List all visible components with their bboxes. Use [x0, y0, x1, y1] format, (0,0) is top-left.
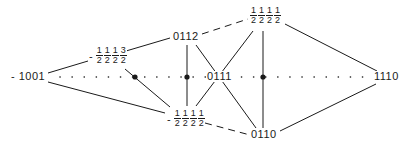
edge-neg1113-to-0112: [126, 38, 170, 51]
edge-1001-to-neg1111: [48, 82, 165, 113]
fraction-denominator: 2: [112, 56, 119, 65]
node-label-0111: 0111: [206, 71, 233, 82]
fraction-denominator: 2: [258, 16, 265, 25]
edge-neg1113-to-neg1111: [125, 69, 170, 107]
fraction-denominator: 2: [174, 119, 181, 128]
edge-top1111-to-1110: [285, 24, 377, 71]
fraction-sign: -: [89, 50, 93, 62]
node-label-1110: 1110: [373, 71, 400, 82]
fraction-denominator: 2: [190, 119, 197, 128]
fraction-denominator: 2: [198, 119, 205, 128]
edge-0112-to-top1111-dashed: [202, 19, 248, 34]
node-dot-2: [184, 74, 189, 79]
edge-top1111-to-neg1111: [196, 31, 253, 106]
fraction-denominator: 2: [104, 56, 111, 65]
node-dot-3: [260, 74, 265, 79]
node-label-1001: - 1001: [10, 71, 46, 82]
node-fraction-neg1113: - 12 12 12 32: [89, 46, 127, 65]
fraction-denominator: 2: [274, 16, 281, 25]
node-fraction-neg1111: - 12 12 12 12: [167, 109, 205, 128]
fraction-sign: -: [167, 113, 171, 125]
node-label-0112: 0112: [172, 31, 200, 42]
edge-neg1111-to-0110-dashed: [205, 123, 250, 135]
fraction-denominator: 2: [266, 16, 273, 25]
fraction-denominator: 2: [120, 56, 127, 65]
fraction-denominator: 2: [182, 119, 189, 128]
fraction-denominator: 2: [96, 56, 103, 65]
edge-1001-to-neg1113: [48, 61, 88, 73]
node-label-0110: 0110: [250, 129, 278, 140]
node-fraction-top1111: 12 12 12 12: [250, 6, 281, 25]
fraction-denominator: 2: [250, 16, 257, 25]
node-dot-1: [132, 74, 137, 79]
edge-0110-to-1110: [280, 84, 376, 131]
edge-0112-to-0110: [196, 45, 256, 128]
